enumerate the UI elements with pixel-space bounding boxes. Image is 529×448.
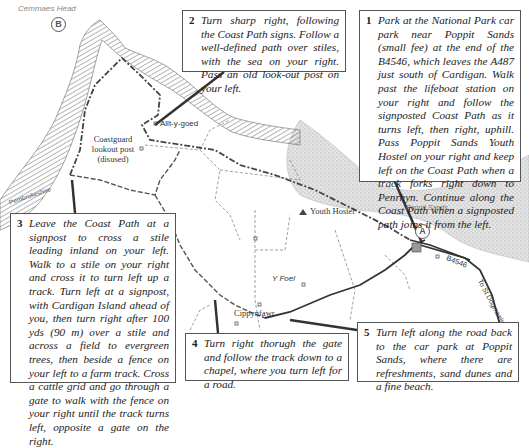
label-coastguard-lookout: Coastguard lookout post (disused) [82,134,144,164]
step-text: Leave the Coast Path at a signpost to cr… [29,217,169,447]
end-marker-b: B [51,17,66,32]
step-3-box: 3 Leave the Coast Path at a signpost to … [10,213,176,383]
label-allt-y-goed: Allt-y-goed [160,119,198,128]
step-5-box: 5 Turn left along the road back to the c… [357,322,519,382]
step-2-box: 2 Turn sharp right, following the Coast … [182,10,346,72]
step-number: 5 [364,326,370,340]
label-youth-hostel: Youth Hostel [310,206,355,216]
parking-icon [412,243,421,252]
step-text: Park at the National Park car park near … [378,14,514,230]
step-number: 2 [189,14,195,28]
step-number: 4 [192,337,198,351]
label-y-foel: Y Foel [272,274,295,283]
label-cippynfawr: Cippynfawr [234,308,275,318]
step-1-box: 1 Park at the National Park car park nea… [359,10,521,182]
step-number: 1 [366,14,372,28]
step-number: 3 [17,217,23,231]
step-4-box: 4 Turn right thorugh the gate and follow… [185,333,349,381]
label-cemmaes-head: Cemmaes Head [18,4,76,13]
road [265,240,500,325]
youth-hostel-icon [299,209,307,215]
